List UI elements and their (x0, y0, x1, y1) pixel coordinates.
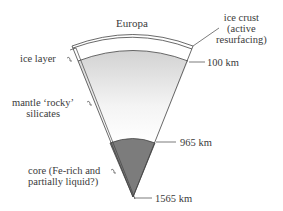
label-ice-crust-line2: (active (216, 23, 267, 34)
depth-1565km: 1565 km (155, 193, 192, 204)
label-core-line2: partially liquid?) (28, 176, 100, 187)
label-core-line1: core (Fe-rich and (28, 165, 100, 176)
title-europa: Europa (116, 18, 148, 29)
depth-965km: 965 km (180, 137, 212, 148)
label-mantle-line2: silicates (12, 108, 74, 119)
depth-100km: 100 km (207, 57, 239, 68)
label-ice-crust-line1: ice crust (216, 12, 267, 23)
label-mantle-line1: mantle ‘rocky’ (12, 97, 74, 108)
ice-crust-outer (72, 35, 193, 47)
ice-crust-inner (73, 37, 192, 49)
mantle-region (78, 51, 188, 144)
label-ice-crust-line3: resurfacing) (216, 34, 267, 45)
label-mantle: mantle ‘rocky’ silicates (12, 97, 74, 119)
label-ice-crust: ice crust (active resurfacing) (216, 12, 267, 45)
label-ice-layer: ice layer (20, 53, 56, 64)
core-region (110, 139, 155, 198)
label-core: core (Fe-rich and partially liquid?) (28, 165, 100, 187)
